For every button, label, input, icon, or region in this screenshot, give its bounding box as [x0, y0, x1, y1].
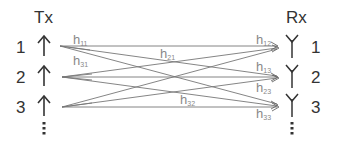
mimo-channel-diagram: Tx Rx 1 2 3: [0, 0, 340, 144]
channel-label-h23: h23: [256, 80, 271, 95]
tx-antenna-3-icon: [38, 96, 50, 116]
channel-label-h12: h12: [256, 32, 271, 47]
tx-label-2: 2: [16, 68, 25, 87]
channel-label-h11: h11: [73, 32, 88, 47]
rx-antenna-2-icon: [286, 65, 298, 88]
rx-title: Rx: [286, 8, 307, 27]
tx-antenna-2-icon: [38, 66, 50, 86]
channel-label-h21: h21: [160, 46, 175, 61]
tx-continuation-dots-icon: [43, 122, 46, 135]
rx-arrowheads-2-icon: [271, 73, 279, 82]
tx-label-1: 1: [16, 38, 25, 57]
rx-antenna-3-icon: [286, 94, 298, 117]
rx-antenna-1-icon: [286, 35, 298, 58]
tx-antenna-1-icon: [38, 36, 50, 56]
tx-title: Tx: [34, 8, 53, 27]
channel-label-h13: h13: [256, 59, 271, 74]
rx-label-1: 1: [311, 38, 320, 57]
tx-label-3: 3: [16, 98, 25, 117]
rx-label-3: 3: [311, 98, 320, 117]
channel-label-h31: h31: [73, 53, 88, 68]
rx-continuation-dots-icon: [291, 122, 294, 135]
rx-label-2: 2: [311, 68, 320, 87]
channel-label-h33: h33: [256, 106, 271, 121]
